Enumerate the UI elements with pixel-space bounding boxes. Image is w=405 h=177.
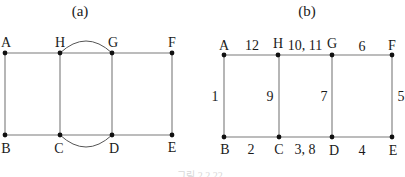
edge-label-d-e: 4: [359, 143, 366, 158]
figure-a: (a) A H G F B C D E: [1, 3, 176, 156]
node-label-d: D: [329, 143, 339, 158]
edge-label-c-d: 3, 8: [295, 142, 316, 157]
node-d: [110, 133, 115, 138]
node-label-h: H: [273, 36, 283, 51]
node-label-e: E: [389, 143, 398, 158]
node-a: [3, 51, 8, 56]
node-g: [330, 53, 335, 58]
node-a: [222, 53, 227, 58]
node-label-f: F: [168, 35, 176, 50]
edge-label-a-h: 12: [245, 38, 259, 53]
edge-label-f-e: 5: [398, 89, 405, 104]
node-h: [58, 51, 63, 56]
node-label-c: C: [54, 141, 63, 156]
edge-label-b-c: 2: [248, 142, 255, 157]
node-c: [58, 133, 63, 138]
node-label-b: B: [1, 141, 10, 156]
node-label-d: D: [109, 141, 119, 156]
edge-label-a-b: 1: [212, 89, 219, 104]
edge-label-g-f: 6: [359, 39, 366, 54]
node-d: [330, 135, 335, 140]
node-b: [3, 133, 8, 138]
node-e: [390, 135, 395, 140]
node-label-e: E: [168, 140, 177, 155]
node-c: [277, 135, 282, 140]
figure-caption: 그림 2.2.22: [177, 170, 223, 177]
node-f: [390, 53, 395, 58]
edge-arc-c-d: [60, 135, 112, 147]
edge-label-h-c: 9: [267, 89, 274, 104]
node-e: [170, 133, 175, 138]
node-f: [170, 51, 175, 56]
node-label-f: F: [388, 38, 396, 53]
edge-label-h-g: 10, 11: [288, 38, 322, 53]
node-label-g: G: [327, 36, 337, 51]
node-label-a: A: [219, 38, 230, 53]
figure-b: (b) A H G F B C D E 12 10, 11 6 1 9 7 5 …: [212, 3, 405, 158]
node-label-h: H: [55, 35, 65, 50]
edge-arc-h-g: [60, 41, 112, 53]
node-g: [110, 51, 115, 56]
node-h: [276, 53, 281, 58]
node-label-b: B: [220, 142, 229, 157]
edge-label-g-d: 7: [321, 89, 328, 104]
figure-b-title: (b): [298, 3, 316, 20]
node-label-c: C: [274, 142, 283, 157]
node-b: [222, 135, 227, 140]
node-label-a: A: [1, 35, 12, 50]
node-label-g: G: [108, 35, 118, 50]
figure-a-title: (a): [72, 3, 89, 20]
figure-canvas: (a) A H G F B C D E (b): [0, 0, 405, 177]
